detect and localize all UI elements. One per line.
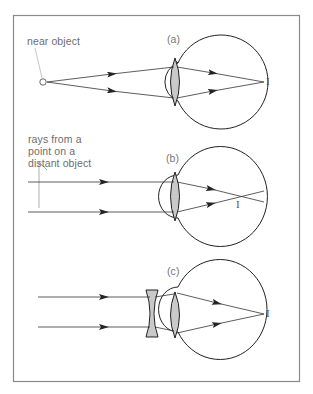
panel-c: [38, 259, 267, 359]
panel-c-tag: (c): [167, 266, 180, 277]
rays-a: [47, 67, 264, 98]
diagram-canvas: [0, 0, 313, 394]
distant-object-caption-line-1: rays from a: [28, 134, 82, 145]
image-point-a-label: I: [266, 76, 270, 87]
near-object-label: near object: [27, 36, 80, 47]
near-object-leader: [35, 48, 42, 78]
eye-focus-diagram: near object (a) I rays from a point on a…: [0, 0, 313, 394]
eye-lens-b: [171, 172, 180, 221]
distant-object-caption-line-3: distant object: [28, 158, 91, 169]
near-object-marker: [40, 79, 46, 85]
eye-lens-a: [171, 58, 180, 106]
eye-a: [165, 35, 268, 129]
rays-b: [28, 182, 264, 212]
panel-a-tag: (a): [167, 34, 180, 45]
image-point-b-label: I: [236, 199, 240, 210]
image-point-c-label: I: [266, 308, 270, 319]
panel-a: [35, 35, 268, 129]
panel-b-tag: (b): [166, 153, 179, 164]
distant-object-caption-line-2: point on a: [28, 146, 75, 157]
